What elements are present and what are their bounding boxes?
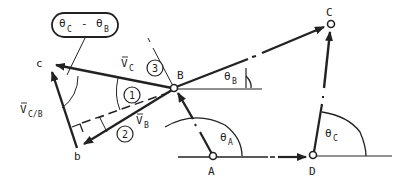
- vb-label: V B: [136, 114, 149, 130]
- svg-text:2: 2: [122, 129, 128, 140]
- svg-text:θ: θ: [325, 127, 332, 140]
- joint-d: [310, 152, 317, 159]
- joint-b: [171, 85, 178, 92]
- theta-c-label: θ C: [325, 127, 338, 143]
- label-c-upper: C: [326, 6, 333, 19]
- svg-text:V: V: [121, 57, 128, 70]
- svg-text:-: -: [81, 17, 88, 30]
- svg-text:θ: θ: [59, 17, 66, 30]
- svg-text:θ: θ: [220, 131, 227, 144]
- theta-b-label: θ B: [224, 70, 237, 86]
- svg-text:C: C: [67, 25, 72, 34]
- vcb-label: V C/B: [20, 103, 43, 119]
- vc-label: V C: [121, 57, 134, 73]
- marker-1: 1: [124, 87, 140, 103]
- svg-text:3: 3: [152, 63, 158, 74]
- label-c-lower: c: [36, 57, 43, 70]
- theta-difference-box: θ C - θ B: [52, 13, 118, 37]
- svg-text:V: V: [20, 103, 27, 116]
- four-bar-linkage-velocity-diagram: A B C D b c θ A θ B θ C θ C - θ B V C V …: [0, 0, 408, 181]
- marker-3: 3: [147, 60, 163, 76]
- link-bc: [176, 27, 324, 89]
- svg-text:C/B: C/B: [28, 110, 43, 119]
- svg-text:C: C: [129, 64, 134, 73]
- theta-a-label: θ A: [220, 131, 233, 147]
- svg-text:B: B: [232, 77, 237, 86]
- angle-arcs: [62, 38, 366, 156]
- joint-c: [328, 21, 335, 28]
- svg-text:θ: θ: [224, 70, 231, 83]
- label-b: B: [177, 69, 184, 82]
- svg-text:A: A: [228, 138, 233, 147]
- label-d: D: [309, 165, 316, 178]
- link-ab: [178, 93, 212, 154]
- label-b-lower: b: [74, 150, 81, 163]
- velocity-polygon: [52, 65, 172, 148]
- svg-text:B: B: [104, 25, 109, 34]
- svg-text:θ: θ: [96, 17, 103, 30]
- svg-text:B: B: [144, 121, 149, 130]
- svg-text:C: C: [333, 134, 338, 143]
- svg-text:1: 1: [129, 90, 135, 101]
- svg-text:V: V: [136, 114, 143, 127]
- marker-2: 2: [117, 126, 133, 142]
- joint-a: [210, 153, 217, 160]
- label-a: A: [208, 165, 215, 178]
